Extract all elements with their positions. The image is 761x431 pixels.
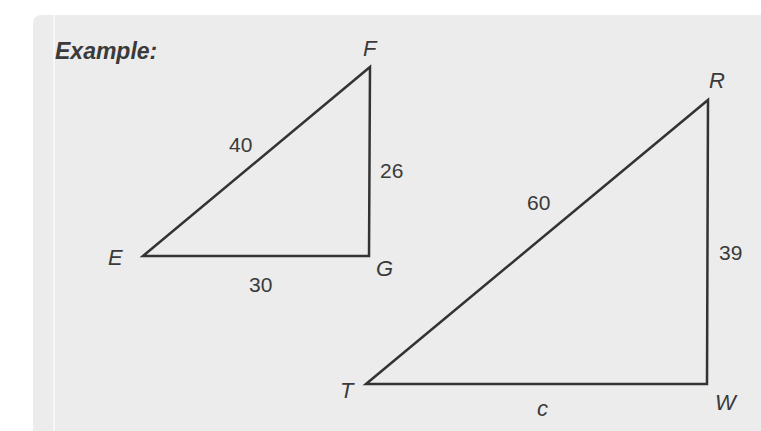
- side-ef-length: 40: [229, 133, 252, 156]
- vertex-t-label: T: [340, 378, 355, 403]
- side-fg-length: 26: [380, 159, 403, 182]
- side-tw-length: c: [537, 396, 548, 421]
- vertex-g-label: G: [376, 256, 393, 281]
- vertex-f-label: F: [363, 36, 378, 61]
- side-rw-length: 39: [719, 241, 742, 264]
- side-eg-length: 30: [249, 273, 272, 296]
- triangle-efg: [143, 67, 370, 256]
- triangle-rtw: [366, 100, 708, 384]
- triangles-diagram: E F G 40 26 30 R T W 60 39 c: [0, 0, 761, 431]
- side-rt-length: 60: [527, 191, 550, 214]
- vertex-w-label: W: [715, 390, 738, 415]
- vertex-r-label: R: [709, 68, 725, 93]
- vertex-e-label: E: [108, 245, 123, 270]
